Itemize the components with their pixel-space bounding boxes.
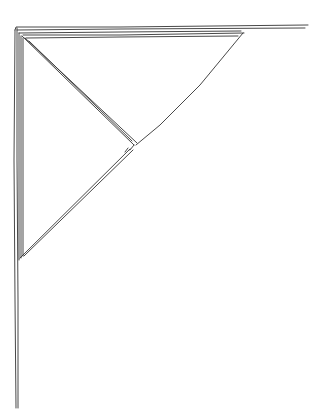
upper-diagonal-brace — [22, 36, 137, 145]
vertical-post — [14, 28, 23, 408]
bracket-sketch — [0, 0, 315, 412]
lower-diagonal-brace — [20, 145, 134, 258]
top-rail — [15, 25, 308, 38]
outer-edge — [136, 33, 243, 145]
